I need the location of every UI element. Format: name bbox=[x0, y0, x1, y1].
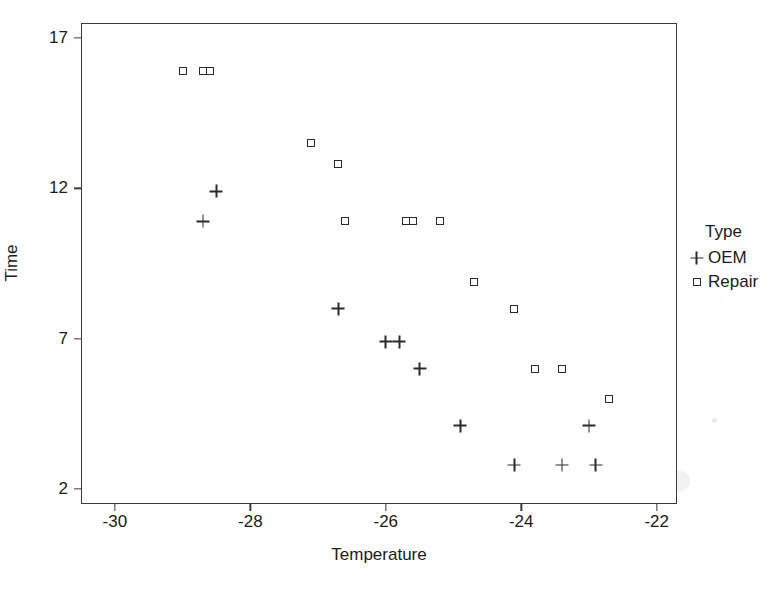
plot-frame bbox=[81, 23, 677, 504]
legend-item-repair: Repair bbox=[688, 270, 774, 294]
y-tick bbox=[74, 338, 81, 339]
x-tick-label: -30 bbox=[103, 512, 128, 532]
scan-artifact bbox=[712, 418, 717, 423]
x-tick bbox=[250, 504, 251, 511]
scatter-plot-figure: -30-28-26-24-22 271217 Temperature Time … bbox=[0, 0, 777, 596]
x-tick bbox=[656, 504, 657, 511]
legend-item-label: OEM bbox=[705, 248, 747, 268]
y-tick-label: 17 bbox=[49, 28, 68, 48]
x-axis-label: Temperature bbox=[81, 545, 677, 565]
legend: Type OEM Repair bbox=[688, 222, 774, 294]
x-tick-label: -28 bbox=[238, 512, 263, 532]
x-tick-label: -22 bbox=[644, 512, 669, 532]
y-tick bbox=[74, 188, 81, 189]
x-tick bbox=[521, 504, 522, 511]
x-tick-label: -24 bbox=[509, 512, 534, 532]
plus-marker-icon bbox=[688, 250, 705, 267]
legend-item-label: Repair bbox=[705, 272, 758, 292]
x-tick-label: -26 bbox=[373, 512, 398, 532]
y-tick bbox=[74, 37, 81, 38]
legend-title: Type bbox=[705, 222, 774, 242]
legend-item-oem: OEM bbox=[688, 246, 774, 270]
y-tick-label: 7 bbox=[59, 329, 68, 349]
y-axis-label: Time bbox=[2, 244, 22, 281]
x-tick bbox=[385, 504, 386, 511]
y-tick-label: 12 bbox=[49, 178, 68, 198]
y-tick bbox=[74, 488, 81, 489]
x-tick bbox=[114, 504, 115, 511]
y-tick-label: 2 bbox=[59, 479, 68, 499]
square-marker-icon bbox=[688, 274, 705, 291]
